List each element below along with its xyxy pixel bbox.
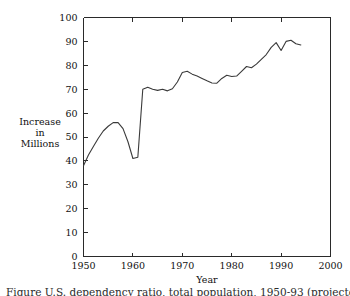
data-series <box>84 40 301 165</box>
chart-figure: 0102030405060708090100 19501960197019801… <box>0 0 350 296</box>
x-tick-label: 2000 <box>318 260 342 271</box>
y-tick-label: 80 <box>65 60 77 71</box>
y-axis-title-line: in <box>35 127 44 138</box>
y-tick-label: 10 <box>65 227 77 238</box>
axes <box>84 18 331 257</box>
figure-caption: Figure U.S. dependency ratio, total popu… <box>0 286 350 296</box>
line-chart: 0102030405060708090100 19501960197019801… <box>0 0 350 296</box>
data-line <box>84 40 301 165</box>
tick-marks <box>84 18 331 257</box>
x-tick-label: 1990 <box>269 260 293 271</box>
x-tick-label: 1970 <box>170 260 194 271</box>
y-tick-label: 90 <box>65 36 77 47</box>
y-tick-label: 30 <box>65 179 77 190</box>
y-tick-label: 70 <box>65 84 77 95</box>
x-axis-title: Year <box>195 274 218 285</box>
y-tick-label: 50 <box>65 131 77 142</box>
x-tick-label: 1950 <box>71 260 95 271</box>
y-axis-title-line: Millions <box>21 138 60 149</box>
x-tick-label: 1980 <box>220 260 244 271</box>
y-tick-label: 100 <box>59 12 77 23</box>
y-tick-label: 60 <box>65 108 77 119</box>
y-tick-labels: 0102030405060708090100 <box>59 12 77 262</box>
x-tick-labels: 195019601970198019902000 <box>71 260 342 271</box>
x-tick-label: 1960 <box>121 260 145 271</box>
y-tick-label: 40 <box>65 155 77 166</box>
y-tick-label: 20 <box>65 203 77 214</box>
y-axis-title-line: Increase <box>19 116 61 127</box>
